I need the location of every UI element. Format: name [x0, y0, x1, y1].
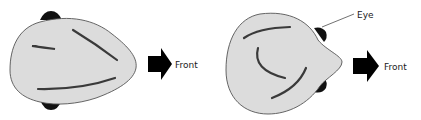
eye-callout-label: Eye [357, 10, 374, 20]
right-front-label: Front [384, 62, 407, 72]
right-head-figure [226, 13, 342, 114]
left-head-figure [10, 11, 136, 110]
left-front-arrow-icon [148, 48, 172, 80]
diagram-canvas: Front Eye Front [0, 0, 421, 120]
eye-callout-line [322, 14, 354, 27]
left-front-label: Front [175, 60, 198, 70]
right-front-arrow-icon [353, 50, 379, 82]
